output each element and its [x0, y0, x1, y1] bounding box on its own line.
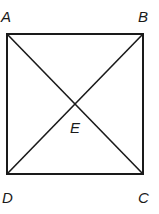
geometry-diagram: A B C D E: [0, 0, 159, 214]
label-a: A: [1, 9, 11, 24]
label-e: E: [70, 120, 80, 135]
label-b: B: [138, 9, 148, 24]
label-c: C: [138, 190, 149, 205]
square-figure: [0, 0, 159, 214]
label-d: D: [2, 190, 13, 205]
